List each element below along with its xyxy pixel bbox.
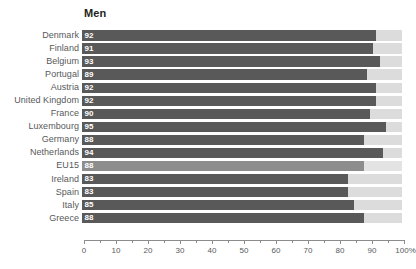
chart-row: Italy85	[0, 199, 415, 212]
bar-value-label: 83	[85, 188, 94, 196]
category-label: Germany	[0, 135, 82, 144]
x-axis-minor-tick	[100, 240, 101, 243]
bar-remainder: 93	[82, 56, 402, 66]
bar-fill: 94	[82, 148, 383, 158]
chart-row: France90	[0, 107, 415, 120]
category-label: Spain	[0, 188, 82, 197]
bar-remainder: 95	[82, 122, 402, 132]
bar-fill: 88	[82, 213, 364, 223]
category-label: EU15	[0, 161, 82, 170]
category-label: Belgium	[0, 57, 82, 66]
category-label: France	[0, 109, 82, 118]
chart-row: Belgium93	[0, 55, 415, 68]
chart-row: Finland91	[0, 42, 415, 55]
x-axis-tick-label: 50	[240, 246, 249, 255]
chart-plot-area: Denmark92Finland91Belgium93Portugal89Aus…	[0, 29, 415, 225]
bar-remainder: 83	[82, 187, 402, 197]
bar-value-label: 83	[85, 175, 94, 183]
bar-fill: 88	[82, 135, 364, 145]
x-axis-minor-tick	[132, 240, 133, 243]
bar-fill: 92	[82, 83, 376, 93]
category-label: Luxembourg	[0, 122, 82, 131]
chart-row: Greece88	[0, 212, 415, 225]
x-axis-tick	[148, 240, 149, 244]
chart-title: Men	[84, 7, 106, 19]
x-axis: 0102030405060708090100%	[84, 240, 404, 268]
bar-fill: 88	[82, 161, 364, 171]
category-label: Italy	[0, 201, 82, 210]
bar-fill: 90	[82, 109, 370, 119]
x-axis-tick	[84, 240, 85, 244]
x-axis-tick-label: 80	[336, 246, 345, 255]
bar-value-label: 88	[85, 162, 94, 170]
bar-remainder: 88	[82, 213, 402, 223]
chart-row: United Kingdom92	[0, 94, 415, 107]
x-axis-tick-label: 10	[112, 246, 121, 255]
chart-row: Luxembourg95	[0, 120, 415, 133]
category-label: Portugal	[0, 70, 82, 79]
bar-fill: 95	[82, 122, 386, 132]
bar-fill: 85	[82, 200, 354, 210]
bar-fill: 89	[82, 69, 367, 79]
bar-fill: 91	[82, 43, 373, 53]
x-axis-tick	[244, 240, 245, 244]
bar-remainder: 92	[82, 96, 402, 106]
x-axis-tick	[212, 240, 213, 244]
bar-value-label: 88	[85, 214, 94, 222]
bar-remainder: 91	[82, 43, 402, 53]
bar-value-label: 95	[85, 123, 94, 131]
x-axis-minor-tick	[388, 240, 389, 243]
bar-remainder: 88	[82, 161, 402, 171]
category-label: Austria	[0, 83, 82, 92]
x-axis-tick-label: 60	[272, 246, 281, 255]
bar-value-label: 91	[85, 45, 94, 53]
category-label: Denmark	[0, 31, 82, 40]
x-axis-tick	[180, 240, 181, 244]
bar-remainder: 92	[82, 30, 402, 40]
x-axis-tick-label: 30	[176, 246, 185, 255]
x-axis-tick-label: 40	[208, 246, 217, 255]
x-axis-minor-tick	[260, 240, 261, 243]
x-axis-tick	[340, 240, 341, 244]
bar-value-label: 92	[85, 84, 94, 92]
category-label: Ireland	[0, 175, 82, 184]
x-axis-tick-label: 100%	[395, 246, 416, 255]
bar-value-label: 92	[85, 97, 94, 105]
chart-row: Austria92	[0, 81, 415, 94]
chart-row: Ireland83	[0, 173, 415, 186]
category-label: Finland	[0, 44, 82, 53]
x-axis-tick	[372, 240, 373, 244]
bar-fill: 83	[82, 174, 348, 184]
category-label: Netherlands	[0, 148, 82, 157]
bar-remainder: 85	[82, 200, 402, 210]
x-axis-minor-tick	[292, 240, 293, 243]
bar-fill: 93	[82, 56, 380, 66]
x-axis-tick	[308, 240, 309, 244]
x-axis-tick-label: 90	[368, 246, 377, 255]
chart-row: Netherlands94	[0, 146, 415, 159]
bar-remainder: 88	[82, 135, 402, 145]
bar-remainder: 90	[82, 109, 402, 119]
bar-value-label: 88	[85, 136, 94, 144]
x-axis-minor-tick	[196, 240, 197, 243]
x-axis-tick-label: 0	[82, 246, 87, 255]
bar-value-label: 92	[85, 32, 94, 40]
x-axis-tick-label: 20	[144, 246, 153, 255]
chart-row: EU1588	[0, 159, 415, 172]
bar-value-label: 93	[85, 58, 94, 66]
x-axis-minor-tick	[228, 240, 229, 243]
x-axis-tick	[404, 240, 405, 244]
bar-remainder: 94	[82, 148, 402, 158]
x-axis-tick	[276, 240, 277, 244]
x-axis-tick	[116, 240, 117, 244]
bar-fill: 83	[82, 187, 348, 197]
x-axis-minor-tick	[356, 240, 357, 243]
chart-row: Portugal89	[0, 68, 415, 81]
bar-fill: 92	[82, 96, 376, 106]
x-axis-minor-tick	[324, 240, 325, 243]
bar-value-label: 85	[85, 201, 94, 209]
chart-row: Germany88	[0, 133, 415, 146]
bar-remainder: 83	[82, 174, 402, 184]
chart-row: Denmark92	[0, 29, 415, 42]
